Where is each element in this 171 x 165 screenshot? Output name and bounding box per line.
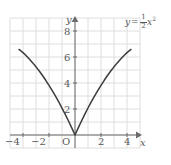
equation-relation: = — [131, 18, 139, 27]
y-axis-label: y — [66, 15, 72, 25]
y-axis-arrow — [72, 16, 79, 22]
x-tick-label-minus-4: −4 — [5, 137, 20, 147]
x-axis-label: x — [140, 138, 146, 148]
equation-power: x2 — [147, 18, 156, 27]
equation-fraction: 1 2 — [140, 14, 146, 30]
fraction-numerator: 1 — [140, 14, 146, 21]
fraction-denominator: 2 — [140, 23, 146, 30]
x-tick-label-4: 4 — [124, 137, 130, 147]
y-tick-label-8: 8 — [64, 27, 70, 37]
parabola-figure: −4 −2 2 4 O 2 4 6 8 x y y = 1 2 x2 — [0, 0, 171, 165]
origin-label: O — [62, 137, 70, 147]
equation-exponent: 2 — [152, 15, 156, 22]
x-tick-label-minus-2: −2 — [31, 137, 46, 147]
y-tick-label-2: 2 — [64, 105, 70, 115]
y-tick-label-6: 6 — [64, 53, 70, 63]
x-tick-label-2: 2 — [98, 137, 104, 147]
equation-lhs: y — [125, 18, 130, 27]
y-tick-label-4: 4 — [64, 79, 70, 89]
equation-label: y = 1 2 x2 — [125, 14, 156, 30]
